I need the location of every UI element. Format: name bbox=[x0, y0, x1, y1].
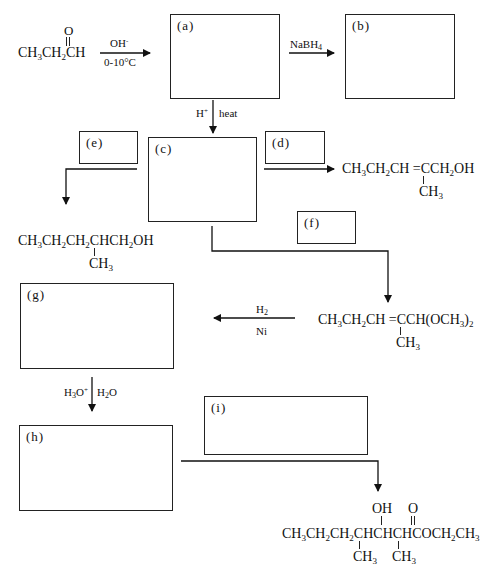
answer-box-c[interactable]: (c) bbox=[148, 137, 257, 222]
product-i-carbonyl-o: O bbox=[408, 502, 418, 516]
box-label-e: (e) bbox=[86, 135, 103, 151]
box-label-b: (b) bbox=[352, 18, 370, 34]
reagent-h2: H2 bbox=[256, 303, 268, 315]
product-e-methyl: CH3 bbox=[89, 257, 113, 271]
product-e-formula: CH3CH2CH2CHCH2OH bbox=[18, 234, 154, 248]
answer-box-d[interactable]: (d) bbox=[265, 131, 325, 164]
product-i-branch-bond-1 bbox=[359, 541, 360, 549]
reagent-nabh4: NaBH4 bbox=[290, 38, 322, 50]
product-i-hydroxyl: OH bbox=[372, 502, 392, 516]
answer-box-h[interactable]: (h) bbox=[19, 425, 173, 511]
carbonyl-double-bond bbox=[66, 37, 67, 46]
product-e-branch-bond bbox=[94, 248, 95, 256]
product-f-formula: CH3CH2CH =CCH(OCH3)2 bbox=[318, 313, 473, 327]
answer-box-f[interactable]: (f) bbox=[297, 211, 356, 244]
start-material: CH3CH2CH bbox=[18, 46, 85, 60]
box-label-c: (c) bbox=[155, 141, 172, 157]
reagent-heat: heat bbox=[219, 107, 237, 119]
reagent-water: H2O bbox=[97, 386, 117, 398]
reagent-temperature: 0-10°C bbox=[104, 56, 136, 68]
reagent-h3o-plus: H3O+ bbox=[64, 386, 88, 398]
answer-box-e[interactable]: (e) bbox=[79, 131, 138, 164]
product-i-methyl-1: CH3 bbox=[353, 550, 377, 564]
answer-box-b[interactable]: (b) bbox=[345, 14, 455, 99]
box-label-h: (h) bbox=[26, 429, 44, 445]
product-d-methyl: CH3 bbox=[419, 185, 443, 199]
product-d-branch-bond bbox=[423, 176, 424, 184]
reagent-h-plus: H+ bbox=[196, 107, 208, 119]
reagent-hydroxide: OH- bbox=[110, 37, 128, 49]
answer-box-g[interactable]: (g) bbox=[20, 283, 174, 369]
answer-box-i[interactable]: (i) bbox=[204, 396, 368, 455]
carbonyl-double-bond bbox=[69, 37, 70, 46]
product-i-carbonyl-bond bbox=[414, 516, 415, 525]
product-i-hydroxyl-bond bbox=[381, 516, 382, 525]
box-label-a: (a) bbox=[177, 18, 194, 34]
box-label-g: (g) bbox=[27, 287, 45, 303]
start-carbonyl-o: O bbox=[64, 24, 73, 38]
box-label-f: (f) bbox=[304, 215, 320, 231]
reagent-ni: Ni bbox=[256, 325, 267, 337]
box-label-i: (i) bbox=[211, 400, 226, 416]
answer-box-a[interactable]: (a) bbox=[170, 14, 280, 99]
product-d-formula: CH3CH2CH =CCH2OH bbox=[342, 162, 474, 176]
product-f-branch-bond bbox=[400, 327, 401, 335]
product-i-methyl-2: CH3 bbox=[392, 550, 416, 564]
product-i-branch-bond-2 bbox=[398, 541, 399, 549]
product-i-carbonyl-bond bbox=[411, 516, 412, 525]
product-i-formula: CH3CH2CH2CHCHCHCOCH2CH3 bbox=[282, 527, 480, 541]
product-f-methyl: CH3 bbox=[396, 336, 420, 350]
box-label-d: (d) bbox=[272, 135, 290, 151]
